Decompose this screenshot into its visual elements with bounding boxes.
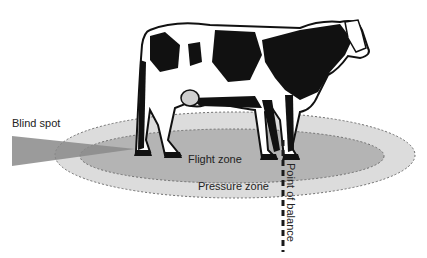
pressure-zone-label: Pressure zone (198, 180, 269, 192)
flight-zone-label: Flight zone (188, 153, 242, 165)
point-of-balance-label: Point of balance (285, 163, 297, 242)
flight-zone-diagram (0, 0, 427, 258)
blind-spot-label: Blind spot (12, 117, 60, 129)
